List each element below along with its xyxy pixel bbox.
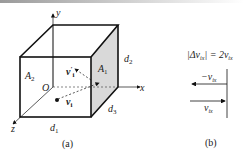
diagram-canvas: y x z O A2 A1 d2 d3 d1 vi v′i (a) |Δvix|…	[0, 0, 244, 156]
minus-vix-label: −vix	[201, 71, 217, 83]
d1-label: d1	[50, 122, 59, 135]
figure-b: |Δvix| = 2vix −vix vix (b)	[187, 49, 233, 149]
z-label: z	[10, 123, 15, 134]
vi-prime-label: v′i	[66, 65, 74, 79]
vi-label: vi	[66, 96, 72, 109]
velocity-out-vector	[75, 69, 91, 80]
vix-label: vix	[204, 102, 213, 114]
y-label: y	[55, 7, 61, 18]
d3-label: d3	[108, 103, 117, 116]
d2-label: d2	[124, 53, 133, 66]
momentum-equation: |Δvix| = 2vix	[187, 49, 233, 61]
face-A2-label: A2	[24, 70, 35, 83]
figure-a: y x z O A2 A1 d2 d3 d1 vi v′i (a)	[10, 7, 145, 150]
caption-a: (a)	[62, 138, 73, 150]
caption-b: (b)	[205, 137, 217, 149]
origin-label: O	[42, 82, 49, 93]
x-label: x	[139, 82, 145, 93]
